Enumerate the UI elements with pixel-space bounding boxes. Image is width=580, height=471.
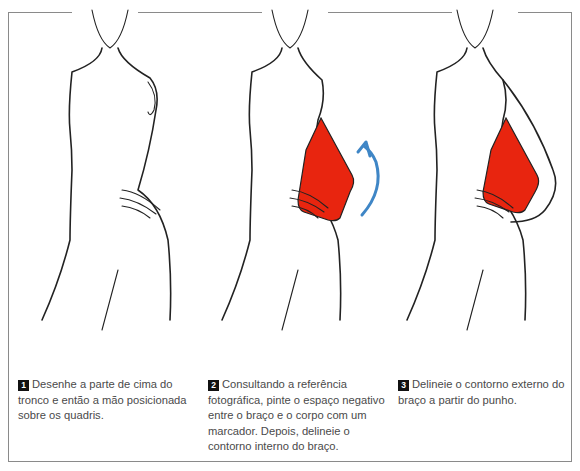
step-number-badge: 3	[398, 380, 409, 391]
figure-step-2	[200, 0, 396, 350]
negative-space-fill	[298, 118, 354, 221]
negative-space-fill	[483, 118, 539, 213]
step-3-caption: 3Delineie o contorno externo do braço a …	[398, 377, 568, 408]
step-number-badge: 2	[208, 380, 219, 391]
figure-step-3	[385, 0, 580, 350]
figure-step-1	[10, 0, 206, 350]
step-1-caption: 1Desenhe a parte de cima do tronco e ent…	[18, 377, 198, 424]
step-2-caption: 2Consultando a referência fotográfica, p…	[208, 377, 386, 455]
step-number-badge: 1	[18, 380, 29, 391]
